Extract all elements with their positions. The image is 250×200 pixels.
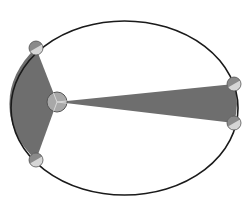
kepler-orbit-diagram bbox=[0, 0, 250, 200]
sun bbox=[47, 92, 67, 112]
swept-area-aphelion bbox=[57, 84, 237, 123]
planet-perihelion-start bbox=[26, 38, 43, 55]
planet-perihelion-end bbox=[26, 150, 43, 167]
